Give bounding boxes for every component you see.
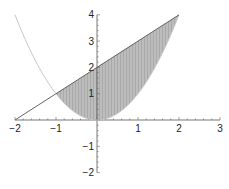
- y-tick-label: 4: [88, 9, 94, 20]
- shaded-area: [56, 15, 179, 120]
- y-tick-label: −2: [83, 167, 95, 178]
- shaded-region: [56, 15, 179, 120]
- y-tick-label: 2: [88, 62, 94, 73]
- x-tick-label: 1: [135, 123, 141, 134]
- y-tick-label: −1: [83, 141, 95, 152]
- x-tick-label: −1: [50, 123, 62, 134]
- y-tick-label: 1: [88, 88, 94, 99]
- x-tick-label: 3: [217, 123, 223, 134]
- y-tick-label: 3: [88, 36, 94, 47]
- x-tick-label: −2: [9, 123, 21, 134]
- x-tick-label: 2: [176, 123, 182, 134]
- chart: −2−1123−2−11234: [0, 0, 229, 189]
